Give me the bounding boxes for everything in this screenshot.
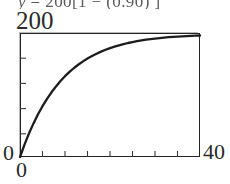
x-axis-ticks (43, 151, 178, 157)
exponential-growth-figure: y = 200[1 − (0.90)x] 200 0 (0, 0, 230, 184)
x-axis-origin-label: 0 (16, 159, 27, 181)
y-axis-max-label: 200 (16, 8, 54, 33)
x-axis-max-label: 40 (203, 141, 225, 163)
exponential-curve (20, 36, 200, 158)
y-axis-ticks (20, 58, 26, 134)
y-axis-origin-label: 0 (3, 142, 14, 164)
